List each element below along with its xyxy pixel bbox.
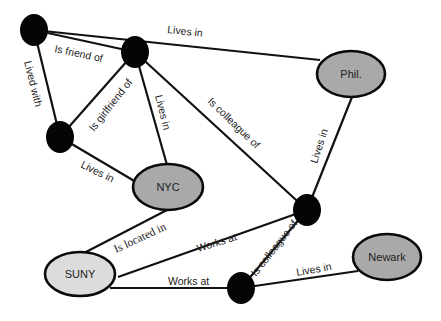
- node-nyc: NYC: [133, 164, 203, 210]
- person-node-a: [20, 14, 48, 46]
- edge-labels: Is friend of Lives in Lived with Is girl…: [22, 23, 333, 287]
- edge-label-d-e: Is colleague of: [248, 217, 299, 278]
- edge-label-a-phil: Lives in: [167, 23, 204, 39]
- node-newark-label: Newark: [368, 251, 406, 263]
- edge-label-a-c: Lived with: [22, 60, 45, 108]
- person-node-d: [293, 194, 321, 226]
- edge-label-a-b: Is friend of: [54, 42, 105, 64]
- edge-label-b-c: Is girlfriend of: [86, 76, 134, 133]
- node-phil: Phil.: [317, 51, 385, 97]
- node-newark: Newark: [353, 234, 421, 280]
- node-suny: SUNY: [45, 252, 115, 296]
- edge-label-suny-e: Works at: [168, 275, 209, 287]
- network-diagram: Is friend of Lives in Lived with Is girl…: [0, 0, 441, 321]
- edge-label-c-nyc: Lives in: [79, 158, 116, 184]
- node-phil-label: Phil.: [340, 68, 361, 80]
- person-node-e: [227, 272, 255, 304]
- node-nyc-label: NYC: [156, 181, 179, 193]
- person-node-c: [46, 121, 74, 153]
- edge-label-suny-d: Works at: [195, 230, 238, 254]
- edge-label-suny-nyc: Is located in: [112, 220, 168, 255]
- node-suny-label: SUNY: [65, 268, 96, 280]
- person-node-b: [121, 36, 149, 68]
